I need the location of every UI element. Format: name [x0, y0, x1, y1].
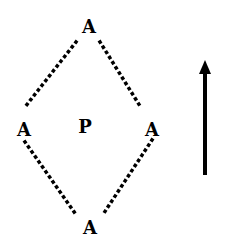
up-arrow-icon: [199, 60, 211, 175]
diagram-lines: [0, 0, 229, 251]
edge-left-bottom: [25, 142, 77, 216]
edge-top-right: [100, 42, 140, 106]
diagram-canvas: A A P A A: [0, 0, 229, 251]
node-left-label: A: [17, 121, 31, 139]
node-center-label: P: [78, 118, 92, 136]
edge-right-bottom: [102, 140, 152, 216]
node-right-label: A: [145, 121, 159, 139]
edge-top-left: [25, 42, 76, 107]
node-top-label: A: [82, 18, 96, 36]
node-bottom-label: A: [83, 219, 97, 237]
